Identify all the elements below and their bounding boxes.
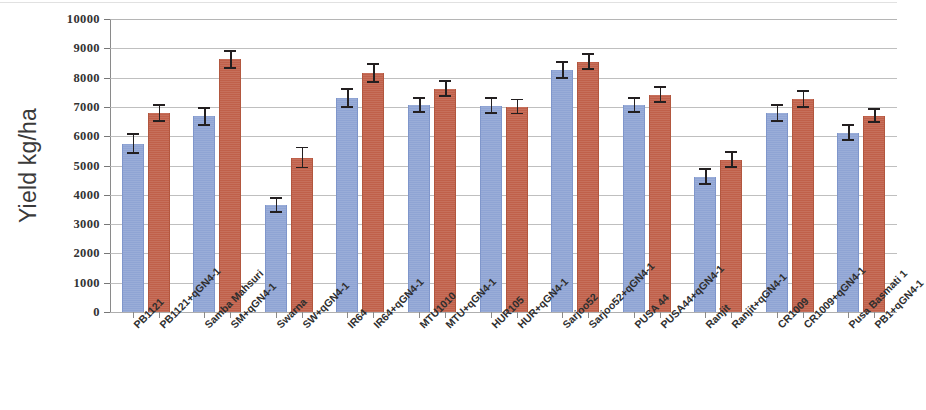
bar-sm-qgn4-1[interactable] [219, 59, 241, 312]
error-bar-cap-lower [842, 139, 854, 141]
plot-area [110, 19, 897, 312]
y-axis-tickmark [104, 253, 110, 254]
error-bar-stem [419, 98, 421, 113]
bar-mtu-qgn4-1[interactable] [434, 89, 456, 312]
y-axis-tickmark [104, 195, 110, 196]
bar-fill [792, 99, 814, 312]
error-bar-cap-lower [699, 183, 711, 185]
bar-fill [649, 95, 671, 312]
bar-fill [577, 62, 599, 313]
y-axis-tickmark [104, 48, 110, 49]
error-bar-cap-lower [367, 81, 379, 83]
bar-fill [336, 98, 358, 312]
y-axis-tick-label: 5000 [38, 158, 100, 173]
error-bar-stem [230, 51, 232, 68]
error-bar-stem [588, 54, 590, 69]
bar-pb1121-qgn4-1[interactable] [148, 113, 170, 312]
error-bar-stem [347, 89, 349, 107]
bar-fill [863, 116, 885, 312]
x-axis-category-labels: PB1121PB1121+qGN4-1Samba MahsuriSM+qGN4-… [110, 312, 897, 410]
error-bar-cap-lower [485, 112, 497, 114]
error-bar-stem [731, 152, 733, 167]
error-bar-cap-upper [868, 108, 880, 110]
y-axis-tickmark [104, 107, 110, 108]
bar-sw-qgn4-1[interactable] [291, 158, 313, 312]
error-bar-cap-upper [582, 53, 594, 55]
error-bar-cap-lower [511, 113, 523, 115]
bar-fill [506, 107, 528, 312]
error-bar-cap-upper [367, 63, 379, 65]
error-bar-stem [373, 64, 375, 82]
error-bar-stem [302, 148, 304, 168]
error-bar-stem [445, 81, 447, 96]
error-bar-cap-lower [413, 111, 425, 113]
error-bar-cap-upper [296, 147, 308, 149]
error-bar-stem [634, 98, 636, 113]
error-bar-stem [777, 105, 779, 121]
error-bar-cap-lower [556, 77, 568, 79]
y-axis-tick-label: 4000 [38, 187, 100, 202]
bar-fill [122, 144, 144, 312]
error-bar-cap-lower [797, 106, 809, 108]
bar-ranjit-qgn4-1[interactable] [720, 160, 742, 312]
y-axis-tickmark [104, 283, 110, 284]
bar-pb1-qgn4-1[interactable] [863, 116, 885, 312]
error-bar-cap-upper [699, 168, 711, 170]
error-bar-cap-upper [270, 197, 282, 199]
error-bar-cap-lower [771, 120, 783, 122]
bar-pusa44-qgn4-1[interactable] [649, 95, 671, 312]
error-bar-cap-upper [842, 124, 854, 126]
bar-cr1009-qgn4-1[interactable] [792, 99, 814, 312]
y-axis-tickmark [104, 19, 110, 20]
error-bar-stem [276, 198, 278, 212]
error-bar-cap-lower [341, 106, 353, 108]
error-bar-cap-upper [224, 50, 236, 52]
error-bar-cap-upper [485, 97, 497, 99]
error-bar-stem [204, 108, 206, 125]
error-bar-stem [803, 91, 805, 107]
y-axis-tickmark [104, 136, 110, 137]
y-axis-tickmark [104, 78, 110, 79]
error-bar-stem [159, 105, 161, 121]
error-bar-cap-lower [439, 95, 451, 97]
y-axis-tick-label: 2000 [38, 246, 100, 261]
bar-fill [219, 59, 241, 312]
scan-artifact-line [0, 2, 897, 3]
error-bar-cap-lower [868, 121, 880, 123]
y-axis-tick-label: 0 [38, 305, 100, 320]
error-bar-cap-upper [198, 107, 210, 109]
error-bar-cap-upper [413, 97, 425, 99]
error-bar-cap-upper [771, 104, 783, 106]
y-axis-tickmark [104, 224, 110, 225]
error-bar-cap-upper [628, 97, 640, 99]
error-bar-cap-upper [511, 99, 523, 101]
y-axis-tick-label: 7000 [38, 99, 100, 114]
error-bar-cap-upper [556, 61, 568, 63]
bar-fill [362, 73, 384, 312]
error-bar-cap-lower [153, 120, 165, 122]
bar-pb1121[interactable] [122, 144, 144, 312]
bar-fill [720, 160, 742, 312]
error-bar-cap-lower [270, 211, 282, 213]
error-bar-cap-upper [439, 80, 451, 82]
bar-ir64-qgn4-1[interactable] [362, 73, 384, 312]
error-bar-cap-upper [153, 104, 165, 106]
bar-fill [434, 89, 456, 312]
bar-fill [291, 158, 313, 312]
error-bar-stem [517, 100, 519, 114]
error-bar-stem [491, 98, 493, 113]
error-bar-stem [133, 134, 135, 153]
error-bar-stem [848, 125, 850, 140]
bar-sarjoo52-qgn4-1[interactable] [577, 62, 599, 313]
y-axis-tick-label: 3000 [38, 217, 100, 232]
error-bar-cap-upper [127, 133, 139, 135]
bar-fill [148, 113, 170, 312]
bar-hur-qgn4-1[interactable] [506, 107, 528, 312]
y-axis-tick-label: 8000 [38, 70, 100, 85]
error-bar-cap-lower [224, 67, 236, 69]
error-bar-cap-lower [296, 167, 308, 169]
bar-ir64[interactable] [336, 98, 358, 312]
error-bar-cap-upper [341, 88, 353, 90]
y-axis-tick-labels: 1000090008000700060005000400030002000100… [38, 0, 100, 410]
